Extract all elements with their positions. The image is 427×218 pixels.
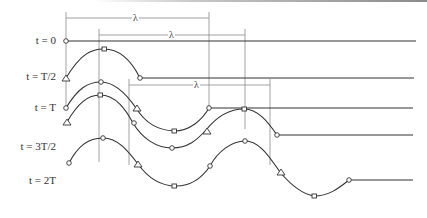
circle-marker-icon xyxy=(132,121,137,126)
wave-curves xyxy=(66,41,416,196)
row-label-t-2: t = 2T xyxy=(0,174,56,186)
row-label-t-half: t = T/2 xyxy=(0,70,56,82)
circle-marker-icon xyxy=(138,76,143,81)
circle-marker-icon xyxy=(64,106,69,111)
square-marker-icon xyxy=(172,129,177,133)
circle-marker-icon xyxy=(275,133,280,138)
circle-marker-icon xyxy=(64,39,69,44)
triangle-marker-icon xyxy=(63,119,71,125)
circle-marker-icon xyxy=(99,80,104,85)
circle-marker-icon xyxy=(208,164,213,169)
circle-marker-icon xyxy=(101,136,106,141)
triangle-marker-icon xyxy=(203,128,211,134)
square-marker-icon xyxy=(98,93,103,97)
square-marker-icon xyxy=(102,47,107,51)
row-label-t-full: t = T xyxy=(0,101,56,113)
circle-marker-icon xyxy=(243,139,248,144)
square-marker-icon xyxy=(242,107,247,111)
wavelength-label-3: λ xyxy=(193,80,200,90)
square-marker-icon xyxy=(312,194,317,198)
point-markers xyxy=(62,39,351,198)
wave-diagram xyxy=(0,0,427,218)
wavelength-label-1: λ xyxy=(132,13,139,23)
triangle-marker-icon xyxy=(134,161,142,167)
wavelength-label-2: λ xyxy=(168,30,175,40)
row-label-t-3half: t = 3T/2 xyxy=(0,140,56,152)
square-marker-icon xyxy=(172,184,177,188)
circle-marker-icon xyxy=(67,161,72,166)
triangle-marker-icon xyxy=(62,75,70,81)
circle-marker-icon xyxy=(170,146,175,151)
circle-marker-icon xyxy=(207,106,212,111)
circle-marker-icon xyxy=(347,178,352,183)
row-label-t0: t = 0 xyxy=(0,34,56,46)
